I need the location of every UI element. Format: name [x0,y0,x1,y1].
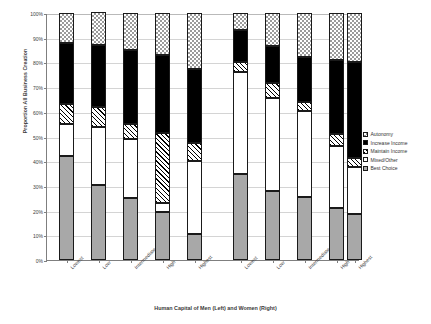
x-axis-title: Human Capital of Men (Left) and Women (R… [0,305,431,311]
y-axis-tick-label: 50% [33,135,43,141]
bar-segment-mixed-other [347,167,362,214]
bar-segment-best-choice [91,185,106,260]
legend-item: Autonomy [363,131,431,137]
y-axis-tick-label: 100% [30,11,43,17]
stacked-bar [233,14,248,260]
legend-label: Maintain Income [371,148,408,154]
bar-segment-autonomy [59,13,74,43]
bar-segment-best-choice [59,156,74,260]
stacked-bar [123,14,138,260]
bar-segment-maintain-income [91,107,106,127]
bar-segment-autonomy [123,13,138,50]
y-axis-tick-mark [44,261,47,262]
stacked-bar [91,14,106,260]
bar-segment-maintain-income [187,143,202,162]
y-axis-tick-label: 90% [33,36,43,42]
x-axis-tick-mark [337,260,338,263]
y-axis-tick-label: 70% [33,85,43,91]
stacked-bar [297,14,312,260]
y-axis-tick-label: 30% [33,184,43,190]
y-axis-tick-label: 10% [33,233,43,239]
bar-segment-best-choice [329,208,344,260]
bar-segment-increase-income [155,55,170,133]
bar-segment-increase-income [265,46,280,83]
x-axis-tick-mark [305,260,306,263]
x-axis-tick-label: Low [275,260,286,271]
legend-item: Best Choice [363,165,431,171]
y-axis-tick-mark [44,14,47,15]
bar-segment-autonomy [187,13,202,69]
bar-segment-autonomy [155,13,170,55]
bar-segment-maintain-income [347,158,362,168]
x-axis-tick-mark [67,260,68,263]
bar-segment-mixed-other [297,111,312,197]
y-axis-tick-mark [44,138,47,139]
legend-swatch-white [363,157,368,162]
bar-segment-increase-income [91,45,106,107]
bar-segment-autonomy [265,13,280,46]
legend-swatch-checker [363,132,368,137]
chart-legend: AutonomyIncrease IncomeMaintain IncomeMi… [363,131,431,174]
bar-segment-maintain-income [155,133,170,203]
bar-segment-maintain-income [329,134,344,146]
bar-segment-mixed-other [123,139,138,198]
y-axis-title: Proportion All Business Creation [22,21,28,161]
bar-segment-mixed-other [155,203,170,212]
bar-segment-maintain-income [59,104,74,124]
x-axis-tick-label: Low [101,260,112,271]
y-axis-tick-mark [44,187,47,188]
bar-segment-increase-income [329,60,344,134]
bar-segment-best-choice [265,191,280,260]
stacked-bar [265,14,280,260]
y-axis-tick-label: 60% [33,110,43,116]
plot-area: 0%10%20%30%40%50%60%70%80%90%100%LowestL… [46,14,359,261]
y-axis-tick-label: 40% [33,159,43,165]
chart-figure: Proportion All Business Creation 0%10%20… [0,0,431,324]
bar-segment-autonomy [347,13,362,62]
bar-segment-mixed-other [233,72,248,173]
bar-segment-autonomy [91,12,106,45]
bar-segment-mixed-other [329,146,344,208]
stacked-bar [347,14,362,260]
x-axis-tick-mark [273,260,274,263]
stacked-bar [187,14,202,260]
x-axis-tick-label: High [339,259,351,271]
y-axis-tick-label: 20% [33,209,43,215]
x-axis-tick-mark [163,260,164,263]
legend-item: Increase Income [363,140,431,146]
y-axis-tick-mark [44,113,47,114]
bar-segment-best-choice [233,174,248,260]
x-axis-tick-mark [355,260,356,263]
bar-segment-maintain-income [265,83,280,98]
bar-segment-best-choice [297,197,312,260]
bar-segment-maintain-income [297,102,312,111]
legend-swatch-diagonal-hatch [363,149,368,154]
bar-segment-best-choice [155,212,170,260]
legend-label: Best Choice [371,165,398,171]
y-axis-tick-mark [44,88,47,89]
bar-segment-increase-income [347,62,362,157]
bar-segment-autonomy [233,13,248,30]
legend-swatch-gray-solid [363,166,368,171]
y-axis-tick-mark [44,212,47,213]
legend-swatch-black [363,140,368,145]
bar-segment-best-choice [347,214,362,260]
stacked-bar [329,14,344,260]
bar-segment-maintain-income [123,124,138,139]
legend-label: Autonomy [371,131,394,137]
bar-segment-increase-income [123,50,138,124]
x-axis-tick-mark [99,260,100,263]
y-axis-tick-mark [44,63,47,64]
bar-segment-best-choice [187,234,202,260]
bar-segment-mixed-other [265,98,280,191]
y-axis-tick-mark [44,39,47,40]
bar-segment-increase-income [297,57,312,101]
y-axis-tick-label: 0% [36,258,43,264]
bar-segment-best-choice [123,198,138,260]
legend-item: Mixed/Other [363,157,431,163]
bar-segment-maintain-income [233,62,248,72]
bar-segment-increase-income [233,30,248,62]
x-axis-tick-mark [241,260,242,263]
bar-segment-mixed-other [91,127,106,185]
legend-item: Maintain Income [363,148,431,154]
